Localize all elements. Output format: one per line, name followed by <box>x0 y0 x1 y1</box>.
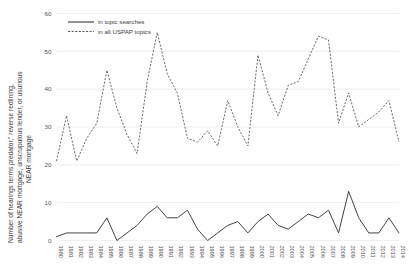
y-tick-10: 10 <box>45 199 52 206</box>
x-tick-1982: 1982 <box>78 246 84 258</box>
x-tick-2014: 2014 <box>400 246 406 258</box>
x-tick-1980: 1980 <box>58 246 64 258</box>
x-tick-2013: 2013 <box>390 246 396 258</box>
y-axis-title-line-2: abusive NEAR mortgage, unscrupulous lend… <box>16 71 24 243</box>
x-tick-2002: 2002 <box>279 246 285 258</box>
gridlines <box>57 14 400 241</box>
x-tick-2003: 2003 <box>289 246 295 258</box>
x-tick-2010: 2010 <box>360 246 366 258</box>
x-tick-1995: 1995 <box>209 246 215 258</box>
x-tick-1984: 1984 <box>98 246 104 258</box>
series-line-2 <box>57 32 400 161</box>
series-layer <box>57 32 400 240</box>
x-tick-2004: 2004 <box>299 246 305 258</box>
x-tick-2007: 2007 <box>330 246 336 258</box>
y-axis-title-line-3: NEAR mortgage <box>25 135 33 183</box>
y-tick-0: 0 <box>48 237 52 244</box>
y-tick-40: 40 <box>45 85 52 92</box>
x-tick-2008: 2008 <box>340 246 346 258</box>
x-tick-1981: 1981 <box>68 246 74 258</box>
legend-label-2: in all USPAP topics <box>98 28 151 35</box>
y-tick-50: 50 <box>45 48 52 55</box>
x-tick-2001: 2001 <box>269 246 275 258</box>
x-tick-2005: 2005 <box>309 246 315 258</box>
x-tick-1994: 1994 <box>199 246 205 258</box>
x-tick-1988: 1988 <box>138 246 144 258</box>
y-tick-20: 20 <box>45 161 52 168</box>
x-tick-1986: 1986 <box>118 246 124 258</box>
x-tick-1983: 1983 <box>88 246 94 258</box>
x-tick-1992: 1992 <box>178 246 184 258</box>
y-axis-tick-labels: 0102030405060 <box>45 10 52 244</box>
line-chart: 0102030405060 19801981198219831984198519… <box>0 0 409 276</box>
x-tick-2011: 2011 <box>370 246 376 258</box>
legend-label-1: in topic searches <box>98 18 144 25</box>
x-tick-1997: 1997 <box>229 246 235 258</box>
x-tick-1999: 1999 <box>249 246 255 258</box>
x-tick-2000: 2000 <box>259 246 265 258</box>
y-tick-60: 60 <box>45 10 52 17</box>
x-tick-1987: 1987 <box>128 246 134 258</box>
x-tick-1990: 1990 <box>158 246 164 258</box>
x-tick-1991: 1991 <box>168 246 174 258</box>
series-line-1 <box>57 191 400 240</box>
x-tick-2012: 2012 <box>380 246 386 258</box>
chart-legend: in topic searchesin all USPAP topics <box>68 18 151 35</box>
y-axis-title-line-1: Number of hearings terms predator," reve… <box>7 84 15 243</box>
x-tick-1996: 1996 <box>219 246 225 258</box>
y-axis-title: Number of hearings terms predator," reve… <box>7 71 33 243</box>
x-tick-1985: 1985 <box>108 246 114 258</box>
x-tick-2009: 2009 <box>350 246 356 258</box>
x-tick-1989: 1989 <box>148 246 154 258</box>
x-tick-1993: 1993 <box>189 246 195 258</box>
chart-container: 0102030405060 19801981198219831984198519… <box>0 0 409 276</box>
x-tick-1998: 1998 <box>239 246 245 258</box>
x-tick-2006: 2006 <box>320 246 326 258</box>
x-axis-tick-labels: 1980198119821983198419851986198719881989… <box>58 246 407 258</box>
y-tick-30: 30 <box>45 123 52 130</box>
